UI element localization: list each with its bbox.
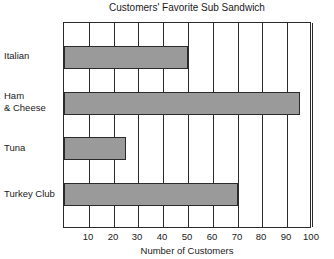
category-label: Italian bbox=[4, 50, 62, 62]
x-tick-label: 100 bbox=[296, 230, 326, 243]
x-axis-tick-labels: 102030405060708090100 bbox=[63, 230, 311, 244]
plot-area bbox=[63, 22, 311, 228]
bar bbox=[64, 137, 126, 160]
chart-title: Customers' Favorite Sub Sandwich bbox=[63, 1, 311, 14]
category-label: Turkey Club bbox=[4, 188, 62, 200]
bars-layer bbox=[64, 23, 310, 227]
bar bbox=[64, 183, 238, 206]
gridline-100 bbox=[312, 23, 313, 227]
x-axis-title: Number of Customers bbox=[63, 244, 311, 257]
bar bbox=[64, 92, 300, 115]
category-label: Tuna bbox=[4, 142, 62, 154]
category-axis-labels: ItalianHam & CheeseTunaTurkey Club bbox=[0, 22, 60, 228]
category-label: Ham & Cheese bbox=[4, 90, 62, 114]
bar-chart-figure: Customers' Favorite Sub Sandwich Italian… bbox=[0, 0, 334, 259]
bar bbox=[64, 46, 188, 69]
